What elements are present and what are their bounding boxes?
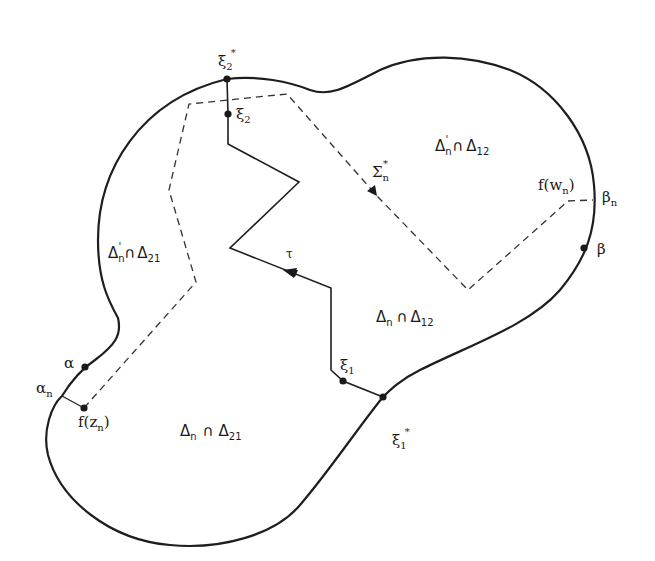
sigma-arrow-icon	[367, 185, 377, 196]
xi2-star-dot	[223, 75, 230, 82]
beta-n-label: βn	[602, 188, 618, 208]
f-zn-dot	[80, 404, 87, 411]
region-dn-prime-d12: Δn'∩Δ12	[435, 134, 489, 157]
sigma-n-star-path	[84, 94, 593, 408]
domain-boundary	[46, 58, 595, 546]
region-dn-d21: Δn∩Δ21	[180, 422, 242, 442]
xi2-label: ξ2	[236, 105, 251, 125]
beta-dot	[580, 244, 587, 251]
xi1-label: ξ1	[340, 356, 355, 376]
tau-path	[227, 79, 383, 397]
f-wn-label: f(wn)	[538, 176, 575, 196]
alpha-n-tick	[62, 396, 84, 408]
xi1-star-dot	[379, 393, 386, 400]
alpha-dot	[81, 363, 88, 370]
f-zn-label: f(zn)	[78, 413, 110, 433]
sigma-label: Σn*	[372, 158, 390, 183]
xi1-star-label: ξ1*	[392, 426, 410, 451]
beta-label: β	[597, 240, 606, 258]
xi2-dot	[224, 110, 231, 117]
domain-diagram: ξ2* ξ2 ξ1 ξ1* α αn f(zn) f(wn) βn β τ Σn…	[0, 0, 655, 561]
xi2-star-label: ξ2*	[218, 47, 236, 72]
alpha-label: α	[64, 354, 74, 372]
xi1-dot	[339, 377, 346, 384]
region-dn-d12: Δn∩Δ12	[376, 308, 434, 328]
tau-label: τ	[286, 247, 293, 261]
alpha-n-label: αn	[36, 379, 53, 399]
region-dn-prime-d21: Δn'∩Δ21	[108, 241, 160, 264]
